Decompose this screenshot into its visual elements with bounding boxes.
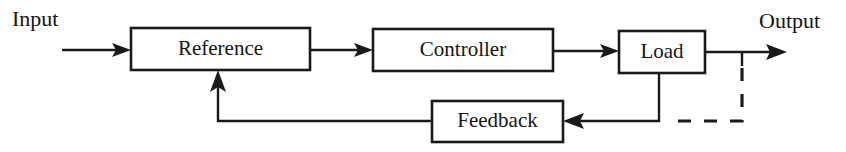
- block-reference[interactable]: Reference: [131, 28, 310, 70]
- block-controller[interactable]: Controller: [373, 29, 553, 71]
- output-label: Output: [759, 8, 820, 33]
- load-label: Load: [640, 39, 684, 63]
- reference-label: Reference: [178, 36, 263, 60]
- connection-input-to-reference: [62, 43, 131, 57]
- controller-label: Controller: [420, 37, 506, 61]
- connection-reference-to-controller: [310, 43, 373, 57]
- load-feedback-path: [574, 73, 659, 121]
- block-diagram-svg: Reference Controller Load Feedback Input…: [0, 0, 846, 152]
- feedback-reference-path: [218, 84, 432, 121]
- connection-controller-to-load: [553, 44, 619, 58]
- input-label: Input: [12, 6, 58, 31]
- block-load[interactable]: Load: [619, 31, 705, 73]
- block-diagram-canvas: Reference Controller Load Feedback Input…: [0, 0, 846, 152]
- connection-load-to-output: [705, 44, 787, 60]
- block-feedback[interactable]: Feedback: [432, 101, 563, 142]
- connection-feedback-to-reference: [210, 70, 432, 121]
- feedback-label: Feedback: [457, 108, 538, 132]
- output-tap-dashed-path: [676, 68, 742, 121]
- connection-load-tap-to-feedback: [563, 73, 659, 129]
